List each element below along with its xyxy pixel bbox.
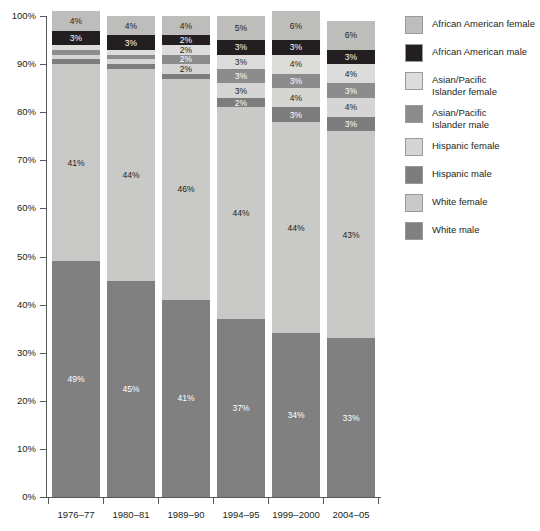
bar-segment: 34% [272, 333, 320, 497]
chart-legend: African American femaleAfrican American … [405, 16, 540, 250]
segment-value-label: 34% [272, 411, 320, 420]
bar-segment: 3% [272, 107, 320, 121]
segment-value-label: 37% [217, 404, 265, 413]
x-axis-tick [323, 497, 324, 504]
bar-segment: 3% [217, 69, 265, 83]
bar-segment: 3% [217, 40, 265, 54]
bar-segment: 2% [217, 98, 265, 108]
bar-segment: 3% [272, 74, 320, 88]
bar-segment: 3% [217, 83, 265, 97]
bar-segment: 5% [217, 16, 265, 40]
x-axis-tick [268, 497, 269, 504]
bar-1994-95: 5%3%3%3%3%2%44%37% [217, 16, 265, 497]
y-axis-tick-label: 0% [0, 492, 36, 502]
segment-value-label: 3% [217, 86, 265, 95]
segment-value-label: 4% [272, 60, 320, 69]
legend-label: Asian/Pacific Islander male [432, 105, 489, 130]
segment-value-label: 4% [107, 21, 155, 30]
segment-value-label: 41% [162, 394, 210, 403]
bar-1999-2000: 6%3%4%3%4%3%44%34% [272, 11, 320, 497]
segment-value-label: 4% [162, 21, 210, 30]
y-axis-tick-label: 50% [0, 252, 36, 262]
y-axis-tick [40, 401, 47, 402]
segment-value-label: 4% [327, 103, 375, 112]
segment-value-label: 46% [162, 185, 210, 194]
segment-value-label: 2% [217, 98, 265, 107]
bar-segment: 4% [162, 16, 210, 35]
bar-segment: 4% [107, 16, 155, 35]
segment-value-label: 3% [327, 86, 375, 95]
legend-swatch [405, 72, 423, 90]
y-axis-tick-label: 10% [0, 444, 36, 454]
x-axis-tick [158, 497, 159, 504]
legend-item: Asian/Pacific Islander male [405, 105, 540, 130]
legend-swatch [405, 16, 423, 34]
bar-segment: 4% [327, 64, 375, 83]
y-axis-tick [40, 449, 47, 450]
legend-label: Asian/Pacific Islander female [432, 72, 497, 97]
bar-segment: 41% [162, 300, 210, 497]
bar-segment: 3% [327, 83, 375, 97]
legend-item: Hispanic male [405, 166, 540, 186]
segment-value-label: 44% [217, 209, 265, 218]
y-axis-tick-label: 20% [0, 396, 36, 406]
bar-segment: 3% [272, 40, 320, 54]
bar-segment: 2% [162, 64, 210, 74]
segment-value-label: 49% [52, 375, 100, 384]
y-axis-tick [40, 257, 47, 258]
y-axis-tick-label: 70% [0, 155, 36, 165]
x-axis-tick [213, 497, 214, 504]
segment-value-label: 3% [217, 72, 265, 81]
legend-swatch [405, 222, 423, 240]
x-axis-tick [103, 497, 104, 504]
bar-segment: 2% [162, 55, 210, 65]
x-axis-tick [378, 497, 379, 504]
bar-segment: 3% [217, 55, 265, 69]
bar-1980-81: 4%3%1%1%1%1%44%45% [107, 16, 155, 497]
bar-segment: 46% [162, 79, 210, 300]
bar-segment: 45% [107, 281, 155, 497]
segment-value-label: 3% [217, 57, 265, 66]
bar-1976-77: 4%3%1%1%1%1%41%49% [52, 11, 100, 497]
plot-area: 4%3%1%1%1%1%41%49%4%3%1%1%1%1%44%45%4%2%… [52, 16, 377, 497]
legend-label: White male [432, 222, 480, 236]
segment-value-label: 44% [272, 223, 320, 232]
y-axis-tick-label: 100% [0, 11, 36, 21]
segment-value-label: 3% [217, 43, 265, 52]
y-axis-tick-label: 40% [0, 300, 36, 310]
legend-item: African American male [405, 44, 540, 64]
legend-swatch [405, 138, 423, 156]
bar-segment: 3% [327, 117, 375, 131]
legend-swatch [405, 166, 423, 184]
bar-segment: 2% [162, 35, 210, 45]
x-axis-tick [48, 497, 49, 504]
legend-item: Hispanic female [405, 138, 540, 158]
y-axis-tick [40, 305, 47, 306]
bar-2004-05: 6%3%4%3%4%3%43%33% [327, 21, 375, 497]
bar-segment: 4% [52, 11, 100, 30]
bar-segment: 3% [107, 35, 155, 49]
bar-segment: 3% [327, 50, 375, 64]
segment-value-label: 3% [107, 38, 155, 47]
segment-value-label: 2% [162, 36, 210, 45]
bar-segment: 37% [217, 319, 265, 497]
segment-value-label: 44% [107, 170, 155, 179]
segment-value-label: 3% [272, 43, 320, 52]
legend-swatch [405, 105, 423, 123]
legend-label: White female [432, 194, 487, 208]
y-axis-tick [40, 160, 47, 161]
segment-value-label: 3% [52, 33, 100, 42]
bar-segment: 6% [327, 21, 375, 50]
segment-value-label: 33% [327, 413, 375, 422]
bar-segment: 43% [327, 131, 375, 338]
segment-value-label: 2% [162, 64, 210, 73]
legend-item: White female [405, 194, 540, 214]
segment-value-label: 6% [272, 21, 320, 30]
segment-value-label: 2% [162, 45, 210, 54]
bar-segment: 33% [327, 338, 375, 497]
bar-segment: 4% [272, 88, 320, 107]
legend-label: Hispanic female [432, 138, 500, 152]
legend-label: African American female [432, 16, 535, 30]
bar-segment: 4% [327, 98, 375, 117]
segment-value-label: 2% [162, 55, 210, 64]
